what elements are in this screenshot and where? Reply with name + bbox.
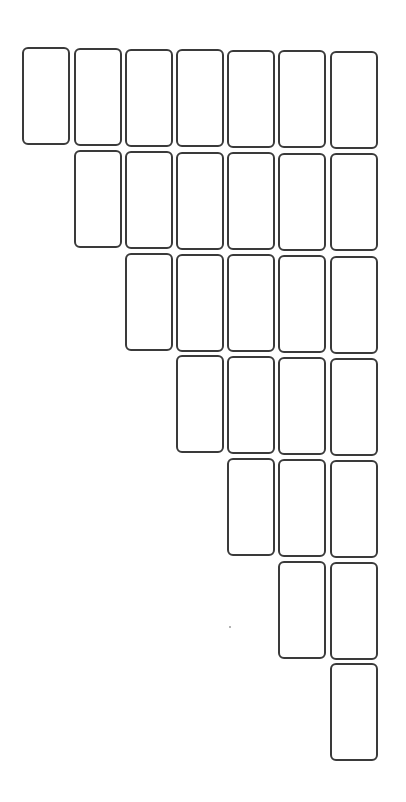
card	[176, 355, 224, 453]
card	[227, 152, 275, 250]
card	[330, 562, 378, 660]
card	[278, 50, 326, 148]
card	[125, 151, 173, 249]
card-staircase-diagram	[0, 0, 406, 802]
card	[330, 460, 378, 558]
card	[330, 153, 378, 251]
card	[22, 47, 70, 145]
card	[278, 459, 326, 557]
card	[278, 255, 326, 353]
card	[278, 153, 326, 251]
card	[330, 358, 378, 456]
card	[330, 256, 378, 354]
card	[125, 49, 173, 147]
card	[176, 49, 224, 147]
card	[227, 50, 275, 148]
card	[176, 152, 224, 250]
card	[125, 253, 173, 351]
card	[330, 51, 378, 149]
card	[176, 254, 224, 352]
card	[74, 150, 122, 248]
card	[227, 458, 275, 556]
scan-speck	[229, 626, 231, 628]
card	[330, 663, 378, 761]
card	[278, 357, 326, 455]
card	[227, 356, 275, 454]
card	[278, 561, 326, 659]
card	[227, 254, 275, 352]
card	[74, 48, 122, 146]
